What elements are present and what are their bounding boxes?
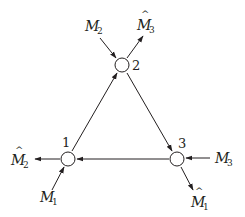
input-arrow-node1 xyxy=(52,167,64,190)
input-arrow-node2 xyxy=(100,38,116,58)
label-node2-output: ^ M 3 xyxy=(136,8,155,35)
node-2 xyxy=(115,58,129,72)
label-node1-output: ^ M 2 xyxy=(10,144,29,170)
node-1-label: 1 xyxy=(62,135,70,150)
label-node2-input: M 2 xyxy=(84,18,103,36)
edge-2-to-3 xyxy=(127,73,172,151)
output-arrow-node2 xyxy=(127,36,143,58)
node-3-label: 3 xyxy=(178,136,186,151)
node-3 xyxy=(170,152,184,166)
node-1 xyxy=(61,152,75,166)
edge-1-to-2 xyxy=(72,73,117,151)
svg-text:2: 2 xyxy=(23,160,29,170)
svg-text:2: 2 xyxy=(97,26,103,36)
node-2-label: 2 xyxy=(132,58,140,73)
svg-text:3: 3 xyxy=(149,25,155,35)
label-node3-input: M 3 xyxy=(214,150,233,168)
svg-text:1: 1 xyxy=(203,202,209,212)
svg-text:3: 3 xyxy=(227,158,233,168)
label-node1-input: M 1 xyxy=(39,189,58,207)
network-diagram: 2 1 3 M 2 ^ M 3 ^ M 2 M 1 M 3 ^ M 1 xyxy=(0,0,245,217)
output-arrow-node3 xyxy=(181,167,193,190)
svg-text:1: 1 xyxy=(52,197,58,207)
